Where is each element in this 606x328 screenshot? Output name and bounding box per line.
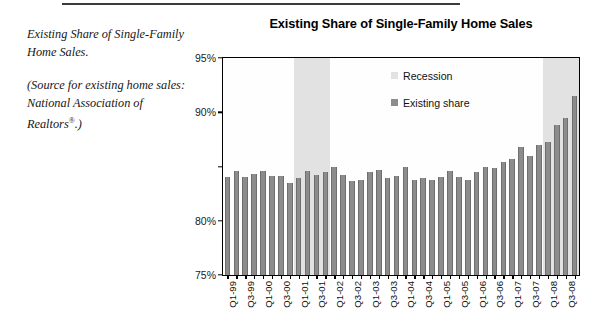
bar[interactable]: [509, 159, 515, 275]
x-axis-label: Q1-04: [405, 281, 416, 308]
x-axis-tick: [486, 275, 487, 279]
y-axis-tick: [218, 274, 223, 275]
y-axis-label: 75%: [195, 269, 216, 281]
x-axis-tick: [575, 275, 576, 279]
x-axis-tick: [423, 275, 424, 279]
x-axis-label: Q3-02: [352, 281, 363, 308]
x-axis-tick: [334, 275, 335, 279]
figure-caption: Existing Share of Single-Family Home Sal…: [27, 26, 195, 134]
bar[interactable]: [447, 171, 453, 275]
bar[interactable]: [367, 172, 373, 275]
x-axis-tick: [325, 275, 326, 279]
x-axis-tick: [361, 275, 362, 279]
x-axis-tick: [263, 275, 264, 279]
x-axis-tick: [343, 275, 344, 279]
bar[interactable]: [296, 178, 302, 275]
x-axis-tick: [450, 275, 451, 279]
chart-legend: Recession Existing share: [391, 68, 470, 122]
bar[interactable]: [474, 172, 480, 275]
bar[interactable]: [420, 178, 426, 275]
bar[interactable]: [563, 118, 569, 275]
legend-item-existing-share[interactable]: Existing share: [391, 95, 470, 110]
x-axis-label: Q3-03: [388, 281, 399, 308]
x-axis-tick: [290, 275, 291, 279]
x-axis-tick: [539, 275, 540, 279]
x-axis-tick: [512, 275, 513, 279]
y-axis-label: 80%: [195, 215, 216, 227]
x-axis-tick: [468, 275, 469, 279]
x-axis-tick: [370, 275, 371, 279]
x-axis-tick: [388, 275, 389, 279]
x-axis-tick: [236, 275, 237, 279]
bar[interactable]: [456, 177, 462, 275]
bar[interactable]: [225, 177, 231, 275]
x-axis-label: Q3-99: [245, 281, 256, 308]
bar[interactable]: [412, 180, 418, 275]
bar[interactable]: [242, 177, 248, 275]
x-axis-label: Q3-07: [530, 281, 541, 308]
x-axis-label: Q3-05: [459, 281, 470, 308]
x-axis-tick: [281, 275, 282, 279]
legend-swatch-recession-icon: [391, 72, 398, 79]
x-axis-tick: [548, 275, 549, 279]
bar[interactable]: [305, 171, 311, 275]
y-axis-tick: [218, 112, 223, 113]
bar[interactable]: [527, 156, 533, 275]
x-axis-label: Q1-03: [370, 281, 381, 308]
bar[interactable]: [349, 181, 355, 275]
bar[interactable]: [403, 167, 409, 276]
x-axis-tick: [245, 275, 246, 279]
bar[interactable]: [501, 162, 507, 275]
bar[interactable]: [483, 167, 489, 276]
bar[interactable]: [251, 174, 257, 275]
bar[interactable]: [340, 175, 346, 275]
caption-source-suffix: .): [75, 117, 82, 131]
bar[interactable]: [287, 183, 293, 275]
y-axis-tick: [218, 57, 223, 58]
x-axis-tick: [494, 275, 495, 279]
header-rule: [62, 3, 460, 5]
chart-title: Existing Share of Single-Family Home Sal…: [222, 16, 580, 31]
bar[interactable]: [554, 125, 560, 275]
x-axis-label: Q1-07: [512, 281, 523, 308]
legend-label-recession: Recession: [403, 70, 452, 82]
x-axis-tick: [405, 275, 406, 279]
bar[interactable]: [260, 171, 266, 275]
bar[interactable]: [234, 171, 240, 275]
x-axis-label: Q3-00: [281, 281, 292, 308]
bar[interactable]: [438, 177, 444, 275]
bar[interactable]: [376, 170, 382, 275]
legend-item-recession[interactable]: Recession: [391, 68, 470, 83]
x-axis-tick: [557, 275, 558, 279]
x-axis-tick: [503, 275, 504, 279]
legend-label-existing-share: Existing share: [403, 97, 470, 109]
bar[interactable]: [536, 145, 542, 275]
bar[interactable]: [331, 167, 337, 276]
bar[interactable]: [358, 180, 364, 275]
caption-heading: Existing Share of Single-Family Home Sal…: [27, 26, 195, 61]
x-axis-label: Q3-04: [423, 281, 434, 308]
bar[interactable]: [465, 180, 471, 275]
bar[interactable]: [314, 175, 320, 275]
x-axis-tick: [316, 275, 317, 279]
bar[interactable]: [323, 172, 329, 275]
bar[interactable]: [572, 96, 578, 275]
bar[interactable]: [394, 176, 400, 275]
x-axis-tick: [566, 275, 567, 279]
page-root: Existing Share of Single-Family Home Sal…: [0, 0, 606, 328]
bar[interactable]: [518, 147, 524, 275]
bar[interactable]: [385, 178, 391, 275]
bar[interactable]: [545, 142, 551, 275]
x-axis-tick: [521, 275, 522, 279]
bar[interactable]: [492, 168, 498, 275]
caption-source: (Source for existing home sales: Nationa…: [27, 77, 195, 134]
bar[interactable]: [429, 180, 435, 275]
bar[interactable]: [269, 176, 275, 275]
x-axis-label: Q1-02: [334, 281, 345, 308]
x-axis-tick: [227, 275, 228, 279]
bar[interactable]: [278, 176, 284, 275]
caption-source-text: (Source for existing home sales: Nationa…: [27, 78, 185, 131]
x-axis-label: Q1-00: [263, 281, 274, 308]
x-axis-label: Q1-08: [548, 281, 559, 308]
x-axis-tick: [397, 275, 398, 279]
